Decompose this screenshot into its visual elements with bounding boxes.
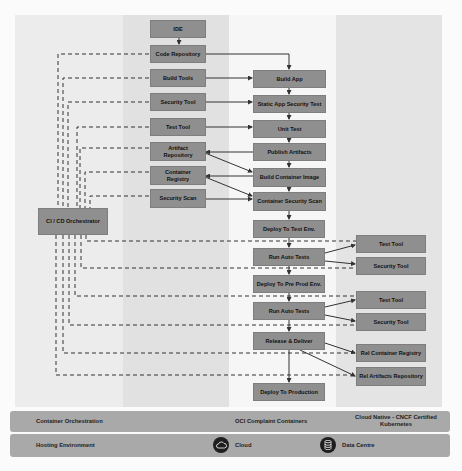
hosting-environment-bar: Hosting Environment Cloud Data Centre bbox=[10, 434, 450, 457]
static-app-security-test-box: Static App Security Test bbox=[253, 95, 326, 113]
container-orchestration-bar: Container Orchestration OCI Complaint Co… bbox=[10, 411, 450, 432]
rel-container-registry-box: Rel Container Registry bbox=[356, 344, 426, 362]
test-tool-2-box: Test Tool bbox=[356, 291, 426, 309]
security-scan-box: Security Scan bbox=[150, 189, 206, 208]
unit-test-box: Unit Test bbox=[253, 120, 326, 138]
deploy-to-pre-prod-env-box: Deploy To Pre Prod Env. bbox=[253, 275, 325, 293]
release-deliver-box: Release & Deliver bbox=[253, 332, 325, 350]
container-orchestration-label: Container Orchestration bbox=[36, 418, 103, 424]
build-tools-box: Build Tools bbox=[150, 69, 206, 87]
security-tool-2-box: Security Tool bbox=[356, 313, 426, 331]
container-registry-box: Container Registry bbox=[150, 166, 206, 185]
artifact-repository-box: Artifact Repository bbox=[150, 142, 206, 161]
data-centre-label: Data Centre bbox=[342, 442, 375, 448]
rel-artifacts-repository-box: Rel Artifacts Repository bbox=[356, 367, 426, 386]
deploy-to-production-box: Deploy To Production bbox=[253, 383, 325, 401]
database-icon bbox=[320, 437, 336, 453]
publish-artifacts-box: Publish Artifacts bbox=[253, 143, 326, 161]
test-tool-box: Test Tool bbox=[150, 118, 206, 136]
hosting-environment-label: Hosting Environment bbox=[36, 442, 95, 448]
security-tool-1-box: Security Tool bbox=[356, 257, 426, 275]
code-repository-box: Code Repository bbox=[150, 45, 206, 63]
security-tool-box: Security Tool bbox=[150, 93, 206, 111]
cncf-kubernetes-label: Cloud Native - CNCF Certified Kubernetes bbox=[346, 414, 446, 428]
test-tool-1-box: Test Tool bbox=[356, 235, 426, 253]
build-app-box: Build App bbox=[253, 70, 326, 88]
container-security-scan-box: Container Security Scan bbox=[253, 192, 326, 211]
build-container-image-box: Build Container Image bbox=[253, 168, 326, 187]
ci-cd-orchestrator-box: CI / CD Orchestrator bbox=[38, 208, 108, 235]
run-auto-tests-1-box: Run Auto Tests bbox=[253, 248, 325, 266]
oci-containers-label: OCI Complaint Containers bbox=[235, 418, 307, 424]
cloud-icon bbox=[213, 437, 229, 453]
run-auto-tests-2-box: Run Auto Tests bbox=[253, 302, 325, 320]
cloud-label: Cloud bbox=[235, 442, 251, 448]
ide-box: IDE bbox=[150, 20, 206, 38]
deploy-to-test-env-box: Deploy To Test Env. bbox=[253, 220, 325, 238]
